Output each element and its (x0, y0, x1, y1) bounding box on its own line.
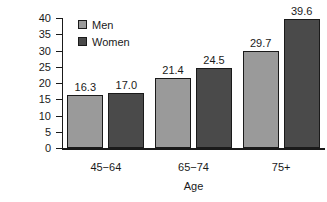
bar-men-2 (243, 51, 279, 148)
legend-label: Men (92, 19, 113, 31)
bar-value-label: 39.6 (279, 5, 325, 17)
x-axis-category-label: 65−74 (150, 161, 238, 173)
y-axis-tick-label: 40 (27, 13, 51, 24)
bar-chart: Percent inactive 0510152025303540 16.317… (0, 0, 327, 202)
x-axis-title: Age (62, 180, 325, 192)
y-axis-tick-label: 0 (27, 143, 51, 154)
legend-label: Women (92, 36, 130, 48)
bar-value-label: 17.0 (103, 79, 149, 91)
bar-value-label: 29.7 (238, 37, 284, 49)
y-axis-tick-label: 30 (27, 46, 51, 57)
chart-legend: MenWomen (78, 17, 130, 51)
y-axis-tick-label: 15 (27, 94, 51, 105)
x-axis-category-label: 45−64 (62, 161, 150, 173)
bar-women-0 (108, 93, 144, 148)
bar-women-2 (284, 19, 320, 148)
x-axis-line (62, 148, 325, 150)
legend-item-women: Women (78, 34, 130, 49)
legend-item-men: Men (78, 17, 130, 32)
legend-swatch-icon (78, 37, 87, 46)
y-axis-tick-label: 10 (27, 111, 51, 122)
bar-men-1 (155, 78, 191, 148)
y-axis-tick-label: 35 (27, 29, 51, 40)
bar-men-0 (67, 95, 103, 148)
y-axis-tick-label: 20 (27, 78, 51, 89)
y-axis-tick-label: 25 (27, 62, 51, 73)
legend-swatch-icon (78, 20, 87, 29)
bar-value-label: 24.5 (191, 54, 237, 66)
bar-value-label: 16.3 (62, 81, 108, 93)
bar-women-1 (196, 68, 232, 148)
bar-value-label: 21.4 (150, 64, 196, 76)
y-axis-tick-label: 5 (27, 127, 51, 138)
x-axis-category-label: 75+ (237, 161, 325, 173)
